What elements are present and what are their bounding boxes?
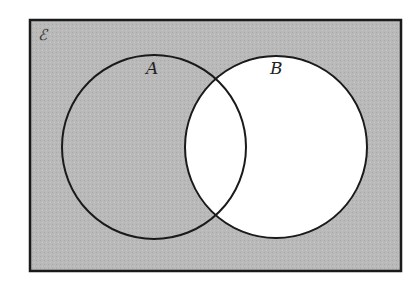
set-b-label: B (269, 58, 283, 78)
venn-diagram: ℰ A B (0, 0, 420, 291)
set-a-label: A (144, 58, 158, 78)
